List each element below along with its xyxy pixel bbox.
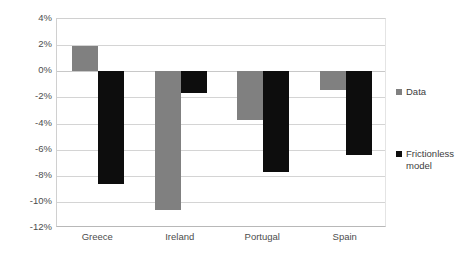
plot-area <box>56 18 386 227</box>
y-axis-tick-label: 4% <box>8 13 52 23</box>
y-axis-tick-label: -4% <box>8 118 52 128</box>
bar-greece-frictionless-model <box>98 71 124 183</box>
legend-entry-data[interactable]: Data <box>396 86 426 98</box>
y-axis-tick-label: -10% <box>8 196 52 206</box>
bar-portugal-frictionless-model <box>263 71 289 172</box>
gridline <box>57 45 385 46</box>
bar-spain-data <box>320 71 346 90</box>
bar-greece-data <box>72 46 98 71</box>
bar-ireland-data <box>155 71 181 209</box>
legend-entry-frictionless-model[interactable]: Frictionless model <box>396 148 468 172</box>
legend-swatch-icon <box>396 89 402 95</box>
bar-chart: 4%2%0%-2%-4%-6%-8%-10%-12% GreeceIreland… <box>0 0 472 262</box>
bar-ireland-frictionless-model <box>181 71 207 93</box>
bar-spain-frictionless-model <box>346 71 372 155</box>
y-axis-tick-label: -8% <box>8 170 52 180</box>
y-axis-tick-label: -6% <box>8 144 52 154</box>
x-axis-tick-label-portugal: Portugal <box>221 230 304 244</box>
y-axis: 4%2%0%-2%-4%-6%-8%-10%-12% <box>0 0 52 262</box>
legend-swatch-icon <box>396 151 402 157</box>
x-axis-tick-label-spain: Spain <box>304 230 387 244</box>
x-axis-tick-label-greece: Greece <box>56 230 139 244</box>
y-axis-tick-label: 2% <box>8 39 52 49</box>
legend-label: Frictionless model <box>406 148 468 172</box>
y-axis-tick-label: -12% <box>8 222 52 232</box>
y-axis-tick-label: 0% <box>8 65 52 75</box>
legend-label: Data <box>406 86 426 98</box>
y-axis-tick-label: -2% <box>8 91 52 101</box>
x-axis: GreeceIrelandPortugalSpain <box>56 230 386 250</box>
bar-portugal-data <box>237 71 263 119</box>
gridline <box>57 202 385 203</box>
x-axis-tick-label-ireland: Ireland <box>139 230 222 244</box>
